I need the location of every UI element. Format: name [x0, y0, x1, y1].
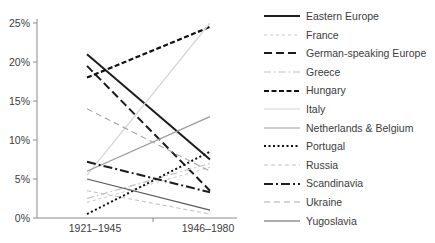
legend-line-sample	[263, 179, 301, 189]
series-line-portugal	[87, 152, 210, 214]
legend-item-label: Netherlands & Belgium	[306, 123, 413, 134]
series-line-greece	[87, 163, 210, 198]
legend-item-label: Eastern Europe	[306, 11, 379, 22]
y-tick-label: 25%	[9, 17, 30, 29]
legend-item-italy: Italy	[263, 100, 426, 119]
legend-line-sample	[263, 160, 301, 170]
legend-item-netherlands-belgium: Netherlands & Belgium	[263, 119, 426, 138]
legend-item-france: France	[263, 26, 426, 45]
legend-line-sample	[263, 216, 301, 226]
legend-item-greece: Greece	[263, 63, 426, 82]
legend-line-sample	[263, 30, 301, 40]
series-line-hungary	[87, 27, 210, 78]
x-axis-label-right: 1946–1980	[182, 222, 235, 234]
y-tick-label: 20%	[9, 56, 30, 68]
legend-item-ukraine: Ukraine	[263, 193, 426, 212]
x-axis-label-left: 1921–1945	[69, 222, 122, 234]
legend-item-label: Ukraine	[306, 197, 342, 208]
series-line-ukraine	[87, 109, 210, 171]
legend-item-german-speaking-europe: German-speaking Europe	[263, 44, 426, 63]
legend-item-label: Hungary	[306, 85, 346, 96]
y-tick-label: 0%	[15, 212, 30, 224]
legend-item-scandinavia: Scandinavia	[263, 174, 426, 193]
legend-line-sample	[263, 48, 301, 58]
legend-item-label: Yugoslavia	[306, 216, 357, 227]
legend-item-label: Russia	[306, 160, 338, 171]
legend-line-sample	[263, 104, 301, 114]
legend-line-sample	[263, 197, 301, 207]
legend-item-label: German-speaking Europe	[306, 48, 426, 59]
slope-chart: 0%5%10%15%20%25%1921–19451946–1980	[0, 0, 262, 243]
slope-chart-figure: 0%5%10%15%20%25%1921–19451946–1980 Easte…	[0, 0, 435, 243]
legend-item-label: France	[306, 30, 339, 41]
legend-item-eastern-europe: Eastern Europe	[263, 7, 426, 26]
y-tick-label: 5%	[15, 173, 30, 185]
legend-item-label: Portugal	[306, 141, 345, 152]
legend-line-sample	[263, 123, 301, 133]
series-line-german-speaking-europe	[87, 66, 210, 191]
legend-item-label: Scandinavia	[306, 178, 363, 189]
legend-line-sample	[263, 86, 301, 96]
legend-line-sample	[263, 141, 301, 151]
series-line-scandinavia	[87, 162, 210, 192]
legend-item-portugal: Portugal	[263, 137, 426, 156]
legend-item-yugoslavia: Yugoslavia	[263, 212, 426, 231]
legend-item-russia: Russia	[263, 156, 426, 175]
series-line-italy	[87, 23, 210, 175]
legend-item-hungary: Hungary	[263, 81, 426, 100]
legend-item-label: Greece	[306, 67, 340, 78]
legend-line-sample	[263, 67, 301, 77]
legend-item-label: Italy	[306, 104, 325, 115]
y-tick-label: 10%	[9, 134, 30, 146]
legend-line-sample	[263, 11, 301, 21]
y-tick-label: 15%	[9, 95, 30, 107]
chart-legend: Eastern EuropeFranceGerman-speaking Euro…	[263, 7, 426, 230]
